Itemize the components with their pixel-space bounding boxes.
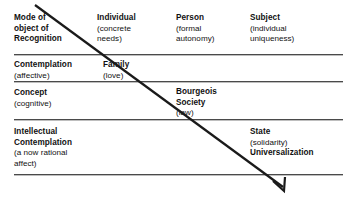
state-sub-1: (solidarity) (250, 138, 314, 149)
bourgeois-title-1: Bourgeois (176, 87, 217, 98)
mode-line-3: Recognition (14, 34, 62, 45)
family-title: Family (103, 60, 129, 71)
person-sub-1: (formal (176, 24, 214, 35)
diagonal-progression-arrowhead (273, 177, 285, 191)
concept-title: Concept (14, 88, 52, 99)
cell-family: Family (love) (103, 60, 129, 81)
diagonal-progression-arrow-shaft (35, 5, 283, 187)
contemplation-title: Contemplation (14, 60, 72, 71)
individual-sub-1: (concrete (97, 24, 136, 35)
intellectual-title-2: Contemplation (14, 138, 72, 149)
row-divider-3 (14, 119, 343, 120)
subject-title: Subject (250, 13, 294, 24)
intellectual-title-1: Intellectual (14, 127, 72, 138)
subject-sub-1: (individual (250, 24, 294, 35)
diagram-canvas: Mode of object of Recognition Individual… (0, 0, 357, 201)
bourgeois-title-2: Society (176, 98, 217, 109)
contemplation-sub-1: (affective) (14, 71, 72, 82)
intellectual-sub-1: (a now rational (14, 148, 72, 159)
bourgeois-sub-1: (law) (176, 108, 217, 119)
cell-state: State (solidarity) Universalization (250, 127, 314, 159)
individual-sub-2: needs) (97, 34, 136, 45)
state-universalization: Universalization (250, 148, 314, 159)
person-title: Person (176, 13, 214, 24)
intellectual-sub-2: affect) (14, 159, 72, 170)
cell-contemplation: Contemplation (affective) (14, 60, 72, 81)
cell-mode-of-object-of-recognition: Mode of object of Recognition (14, 13, 62, 45)
mode-line-2: object of (14, 24, 62, 35)
cell-intellectual-contemplation: Intellectual Contemplation (a now ration… (14, 127, 72, 169)
person-sub-2: autonomy) (176, 34, 214, 45)
cell-concept: Concept (cognitive) (14, 88, 52, 109)
concept-sub-1: (cognitive) (14, 99, 52, 110)
mode-line-1: Mode of (14, 13, 62, 24)
cell-bourgeois-society: Bourgeois Society (law) (176, 87, 217, 119)
cell-individual: Individual (concrete needs) (97, 13, 136, 45)
state-title: State (250, 127, 314, 138)
row-divider-1 (14, 54, 343, 55)
cell-subject: Subject (individual uniqueness) (250, 13, 294, 45)
cell-person: Person (formal autonomy) (176, 13, 214, 45)
family-sub-1: (love) (103, 71, 129, 82)
subject-sub-2: uniqueness) (250, 34, 294, 45)
row-divider-4 (14, 174, 343, 175)
individual-title: Individual (97, 13, 136, 24)
